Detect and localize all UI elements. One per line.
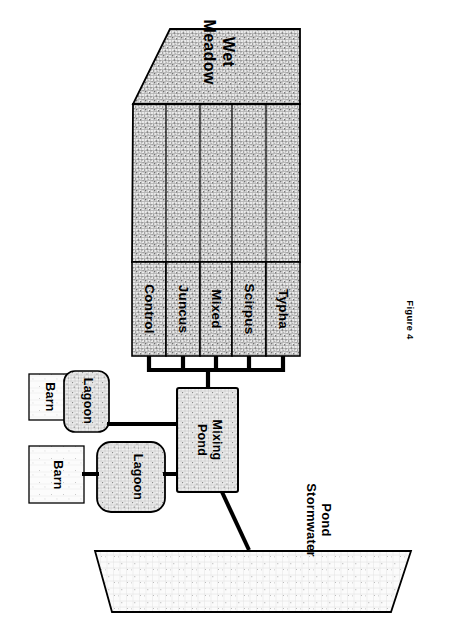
figure-diagram: Wet Meadow Control Juncus Mixed Scirpus … [0,0,452,642]
strip-label-typha: Typha [276,289,291,329]
lagoon-upper-group[interactable]: Lagoon [64,371,109,432]
stormwater-pond-label-line1: Stormwater [304,483,319,557]
strip-label-mixed: Mixed [209,289,224,328]
barn-lower-group[interactable]: Barn [29,446,84,503]
pipe-mixing-to-stormwater [222,492,249,550]
stormwater-pond-label-line2: Pond [319,503,334,536]
lagoon-lower-label: Lagoon [131,454,145,500]
wet-meadow-area: Wet Meadow [132,20,300,262]
strip-label-juncus: Juncus [176,285,191,333]
wet-meadow-label-line1: Wet [220,37,237,67]
distribution-manifold [147,356,285,390]
barn-upper-label: Barn [43,382,57,411]
mixing-pond-label-line2: Pond [195,424,209,456]
lagoon-upper-label: Lagoon [81,378,95,424]
wet-meadow-label-line2: Meadow [201,20,218,85]
strip-label-control: Control [142,284,157,333]
barn-lower-label: Barn [51,460,65,489]
figure-page: Wet Meadow Control Juncus Mixed Scirpus … [0,0,452,642]
barn-upper-group[interactable]: Barn [29,374,68,420]
mixing-pond[interactable]: Mixing Pond [177,388,238,492]
figure-caption: Figure 4 [405,300,416,340]
stormwater-pond-polygon[interactable] [95,551,411,612]
strip-label-scirpus: Scirpus [242,284,257,335]
wet-meadow-lower-block [132,104,300,262]
mixing-pond-label-line1: Mixing [210,420,224,461]
treatment-strips: Control Juncus Mixed Scirpus Typha [132,262,300,356]
lagoon-lower-group[interactable]: Lagoon [97,442,165,512]
